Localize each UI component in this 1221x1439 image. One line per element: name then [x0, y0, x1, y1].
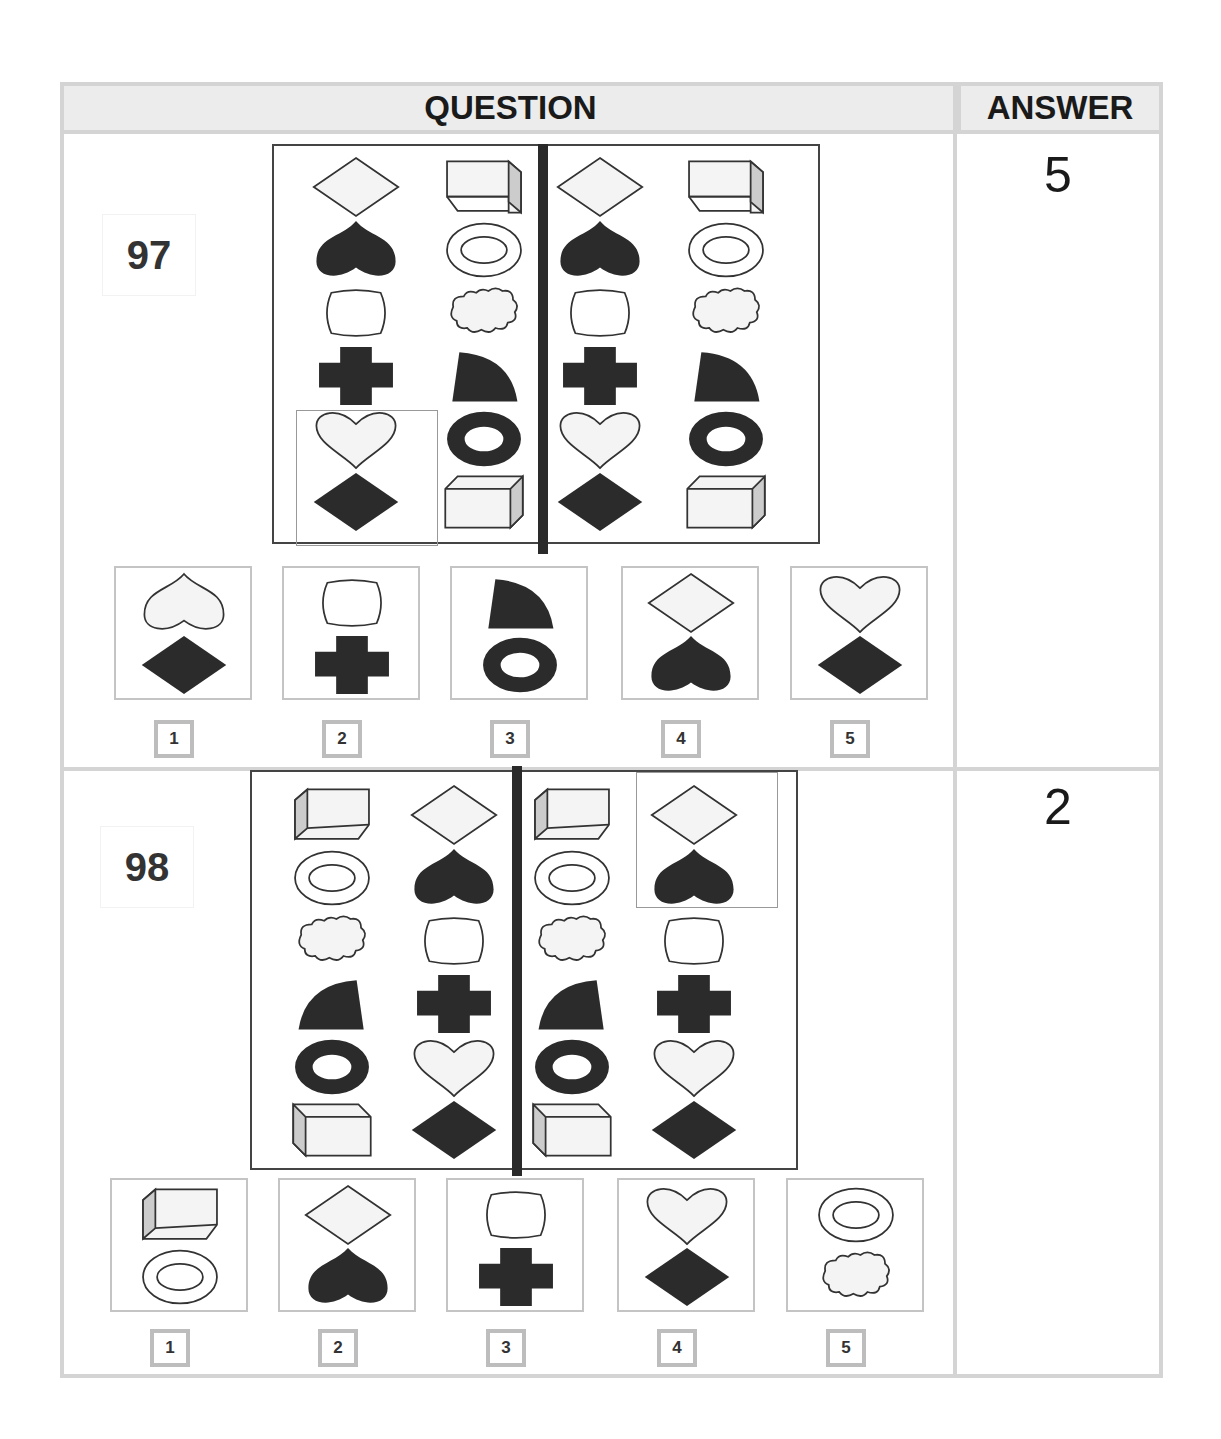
- white-ring-icon: [440, 217, 528, 283]
- black-cross-icon: [410, 971, 498, 1037]
- white-heart-icon: [816, 572, 904, 634]
- white-ring-icon: [812, 1184, 900, 1246]
- option-number-2[interactable]: 2: [322, 720, 362, 758]
- white-heart-inverted-icon: [140, 572, 228, 634]
- white-box-left-icon: [528, 782, 616, 848]
- white-box-front-icon: [682, 469, 770, 535]
- column-divider: [953, 86, 957, 1374]
- black-heart-icon: [312, 217, 400, 283]
- white-box-left-icon: [288, 782, 376, 848]
- black-ring-icon: [288, 1034, 376, 1100]
- shape-grid: [250, 770, 798, 1170]
- black-diamond-icon: [312, 469, 400, 535]
- option-number-4[interactable]: 4: [657, 1329, 697, 1367]
- white-diamond-icon: [650, 782, 738, 848]
- white-heart-icon: [312, 406, 400, 472]
- white-ring-icon: [288, 845, 376, 911]
- white-rounded-rect-icon: [308, 572, 396, 634]
- black-ring-icon: [440, 406, 528, 472]
- question-header: QUESTION: [64, 86, 957, 134]
- black-quarter-circle-icon: [440, 343, 528, 409]
- black-cross-icon: [312, 343, 400, 409]
- white-ring-icon: [136, 1246, 224, 1308]
- option-number-3[interactable]: 3: [490, 720, 530, 758]
- option-number-4[interactable]: 4: [661, 720, 701, 758]
- white-rounded-rect-icon: [472, 1184, 560, 1246]
- question-number-98: 98: [100, 826, 194, 908]
- black-diamond-icon: [410, 1097, 498, 1163]
- mirror-line: [512, 766, 522, 1176]
- black-heart-icon: [410, 845, 498, 911]
- option-number-5[interactable]: 5: [826, 1329, 866, 1367]
- black-heart-icon: [304, 1246, 392, 1308]
- white-rounded-rect-icon: [650, 908, 738, 974]
- black-heart-icon: [556, 217, 644, 283]
- white-box-front-left-icon: [528, 1097, 616, 1163]
- black-cross-icon: [308, 634, 396, 696]
- white-box-left-icon: [136, 1184, 224, 1246]
- white-cloud-icon: [682, 280, 770, 346]
- white-heart-icon: [410, 1034, 498, 1100]
- answer-option-3[interactable]: [446, 1178, 584, 1312]
- black-heart-icon: [650, 845, 738, 911]
- black-ring-icon: [476, 634, 564, 696]
- white-rounded-rect-icon: [556, 280, 644, 346]
- answer-98: 2: [957, 778, 1159, 836]
- white-rounded-rect-icon: [410, 908, 498, 974]
- black-quarter-circle-icon: [682, 343, 770, 409]
- black-diamond-icon: [140, 634, 228, 696]
- answer-option-2[interactable]: [282, 566, 420, 700]
- answer-option-1[interactable]: [110, 1178, 248, 1312]
- white-ring-icon: [528, 845, 616, 911]
- white-heart-icon: [643, 1184, 731, 1246]
- white-heart-icon: [556, 406, 644, 472]
- black-diamond-icon: [816, 634, 904, 696]
- white-diamond-icon: [312, 154, 400, 220]
- answer-option-4[interactable]: [617, 1178, 755, 1312]
- white-box-front-icon: [440, 469, 528, 535]
- black-diamond-icon: [643, 1246, 731, 1308]
- white-box-right-icon: [440, 154, 528, 220]
- black-quarter-circle-mirrored-icon: [528, 971, 616, 1037]
- black-heart-icon: [647, 634, 735, 696]
- white-diamond-icon: [556, 154, 644, 220]
- white-cloud-icon: [440, 280, 528, 346]
- white-rounded-rect-icon: [312, 280, 400, 346]
- option-number-2[interactable]: 2: [318, 1329, 358, 1367]
- answer-header: ANSWER: [957, 86, 1159, 134]
- mirror-line: [538, 144, 548, 554]
- white-diamond-icon: [647, 572, 735, 634]
- question-answer-table: QUESTION ANSWER 5 97 12345 2 98 12345: [60, 82, 1163, 1378]
- white-ring-icon: [682, 217, 770, 283]
- white-diamond-icon: [410, 782, 498, 848]
- black-ring-icon: [528, 1034, 616, 1100]
- black-quarter-circle-mirrored-icon: [288, 971, 376, 1037]
- black-diamond-icon: [650, 1097, 738, 1163]
- black-quarter-circle-icon: [476, 572, 564, 634]
- answer-option-3[interactable]: [450, 566, 588, 700]
- option-number-5[interactable]: 5: [830, 720, 870, 758]
- black-cross-icon: [556, 343, 644, 409]
- answer-option-5[interactable]: [786, 1178, 924, 1312]
- option-number-3[interactable]: 3: [486, 1329, 526, 1367]
- answer-option-4[interactable]: [621, 566, 759, 700]
- white-cloud-icon: [812, 1246, 900, 1308]
- black-cross-icon: [650, 971, 738, 1037]
- answer-option-5[interactable]: [790, 566, 928, 700]
- white-box-front-left-icon: [288, 1097, 376, 1163]
- white-cloud-icon: [288, 908, 376, 974]
- option-number-1[interactable]: 1: [150, 1329, 190, 1367]
- white-box-right-icon: [682, 154, 770, 220]
- question-number-97: 97: [102, 214, 196, 296]
- answer-97: 5: [957, 146, 1159, 204]
- white-diamond-icon: [304, 1184, 392, 1246]
- answer-option-1[interactable]: [114, 566, 252, 700]
- black-diamond-icon: [556, 469, 644, 535]
- black-ring-icon: [682, 406, 770, 472]
- white-heart-icon: [650, 1034, 738, 1100]
- white-cloud-icon: [528, 908, 616, 974]
- answer-option-2[interactable]: [278, 1178, 416, 1312]
- black-cross-icon: [472, 1246, 560, 1308]
- option-number-1[interactable]: 1: [154, 720, 194, 758]
